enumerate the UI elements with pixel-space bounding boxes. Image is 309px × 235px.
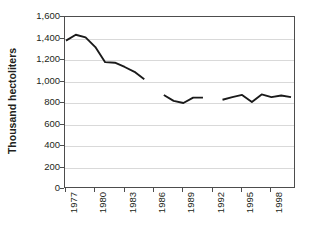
x-tick-label: 1998: [274, 192, 284, 232]
x-axis-tick-labels: 19771980198319861989199219951998: [0, 0, 309, 235]
line-chart: Thousand hectoliters 02004006008001,0001…: [0, 0, 309, 235]
x-tick-label: 1980: [98, 192, 108, 232]
x-tick-label: 1986: [157, 192, 167, 232]
x-tick-label: 1983: [128, 192, 138, 232]
x-tick-label: 1992: [216, 192, 226, 232]
x-tick-label: 1989: [186, 192, 196, 232]
x-tick-label: 1995: [245, 192, 255, 232]
x-tick-label: 1977: [69, 192, 79, 232]
